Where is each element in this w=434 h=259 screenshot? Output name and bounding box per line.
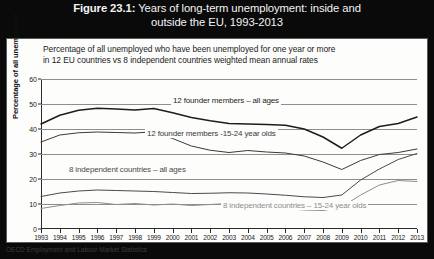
x-tick-label: 1996 (91, 234, 105, 241)
source-note: OECD Employment and Labour Market Statis… (6, 246, 426, 255)
x-tick-mark (97, 229, 98, 233)
y-tick-label: 60 (29, 76, 37, 83)
x-tick-mark (304, 229, 305, 233)
x-tick-mark (135, 229, 136, 233)
x-tick-label: 2001 (185, 234, 199, 241)
y-tick-label: 20 (29, 176, 37, 183)
x-tick-label: 2012 (391, 234, 405, 241)
x-tick-label: 2010 (354, 234, 368, 241)
x-tick-mark (398, 229, 399, 233)
x-tick-mark (379, 229, 380, 233)
figure-title-line2: outside the EU, 1993-2013 (151, 16, 283, 28)
x-tick-mark (79, 229, 80, 233)
chart-subtitle-line1: Percentage of all unemployed who have be… (43, 44, 335, 54)
chart-subtitle-line2: in 12 EU countries vs 8 independent coun… (43, 55, 318, 65)
y-tick-label: 50 (29, 101, 37, 108)
x-tick-label: 2009 (335, 234, 349, 241)
x-tick-mark (229, 229, 230, 233)
x-tick-label: 2013 (410, 234, 424, 241)
x-tick-label: 1997 (109, 234, 123, 241)
x-tick-mark (417, 229, 418, 233)
y-tick-label: 30 (29, 151, 37, 158)
chart-card: Percentage of all unemployed who have be… (6, 38, 428, 243)
x-tick-label: 2005 (260, 234, 274, 241)
x-tick-mark (116, 229, 117, 233)
figure-number: Figure 23.1: (73, 2, 135, 14)
x-tick-label: 2006 (279, 234, 293, 241)
x-tick-label: 2008 (316, 234, 330, 241)
x-tick-label: 1995 (72, 234, 86, 241)
chart-subtitle: Percentage of all unemployed who have be… (43, 44, 415, 65)
figure-title: Figure 23.1: Years of long-term unemploy… (0, 2, 434, 29)
y-tick-label: 40 (29, 126, 37, 133)
x-tick-label: 1994 (53, 234, 67, 241)
x-tick-mark (323, 229, 324, 233)
x-tick-label: 1993 (34, 234, 48, 241)
y-tick-label: 0 (33, 226, 37, 233)
x-tick-mark (41, 229, 42, 233)
x-tick-label: 2003 (222, 234, 236, 241)
figure-title-line1: Years of long-term unemployment: inside … (138, 2, 361, 14)
y-axis-title: Percentage of all unemployed (11, 14, 20, 119)
series-label: 8 independent countries – all ages (67, 165, 188, 174)
x-tick-label: 1999 (147, 234, 161, 241)
x-tick-mark (285, 229, 286, 233)
y-tick-label: 10 (29, 201, 37, 208)
series-label: 8 independent countries – 15-24 year old… (221, 201, 368, 210)
x-tick-mark (248, 229, 249, 233)
series-label: 12 founder members – all ages (171, 96, 281, 105)
x-tick-label: 2000 (166, 234, 180, 241)
x-tick-label: 2002 (203, 234, 217, 241)
x-tick-mark (342, 229, 343, 233)
series-label: 12 founder members -15-24 year olds (145, 129, 278, 138)
x-tick-label: 2004 (241, 234, 255, 241)
x-tick-mark (191, 229, 192, 233)
plot-area: 0102030405060 19931994199519961997199819… (41, 79, 417, 229)
figure-container: Figure 23.1: Years of long-term unemploy… (0, 0, 434, 259)
y-axis-title-wrap: Percentage of all unemployed (15, 79, 29, 229)
x-tick-mark (173, 229, 174, 233)
x-tick-mark (154, 229, 155, 233)
x-tick-label: 1998 (128, 234, 142, 241)
x-tick-mark (210, 229, 211, 233)
x-tick-label: 2007 (297, 234, 311, 241)
x-tick-mark (60, 229, 61, 233)
x-tick-mark (267, 229, 268, 233)
x-tick-mark (361, 229, 362, 233)
x-tick-label: 2011 (373, 234, 386, 241)
